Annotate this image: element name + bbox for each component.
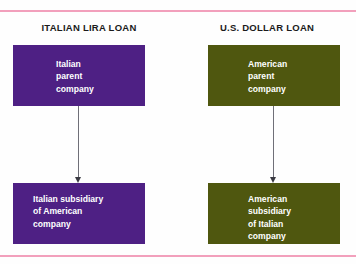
dollar-loan-arrow-line bbox=[273, 106, 274, 181]
italian-loan-arrow-line bbox=[78, 106, 79, 181]
american-parent-company-label: American parent company bbox=[248, 58, 287, 95]
italian-subsidiary-label: Italian subsidiary of American company bbox=[33, 193, 103, 230]
panel-title-italian-lira-loan: ITALIAN LIRA LOAN bbox=[0, 22, 178, 33]
american-parent-company-box: American parent company bbox=[208, 45, 340, 106]
panel-italian-lira-loan: ITALIAN LIRA LOAN Italian parent company… bbox=[0, 0, 178, 264]
italian-parent-company-box: Italian parent company bbox=[13, 45, 145, 106]
american-subsidiary-label: American subsidiary of Italian company bbox=[248, 193, 291, 243]
loan-structure-diagram: ITALIAN LIRA LOAN Italian parent company… bbox=[0, 0, 356, 264]
panel-title-us-dollar-loan: U.S. DOLLAR LOAN bbox=[178, 22, 356, 33]
italian-subsidiary-box: Italian subsidiary of American company bbox=[13, 183, 145, 244]
american-subsidiary-box: American subsidiary of Italian company bbox=[208, 183, 340, 244]
italian-parent-company-label: Italian parent company bbox=[56, 58, 94, 95]
panel-us-dollar-loan: U.S. DOLLAR LOAN American parent company… bbox=[178, 0, 356, 264]
